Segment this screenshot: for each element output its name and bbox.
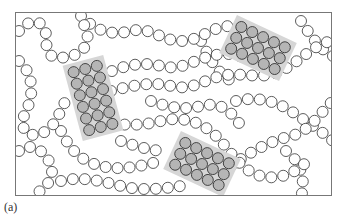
diagram-frame <box>15 12 332 196</box>
figure-label: (a) <box>4 200 17 215</box>
polymer-chain-diagram <box>15 12 332 196</box>
